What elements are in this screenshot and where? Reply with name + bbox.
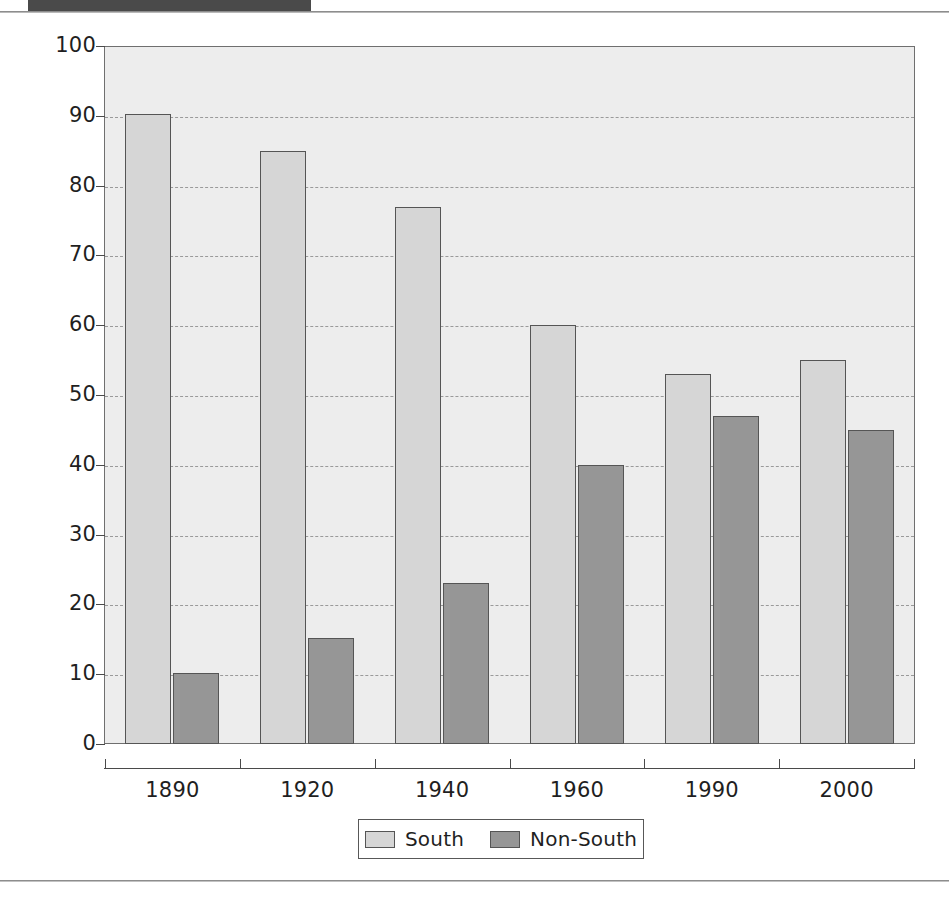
cropped-header-band xyxy=(28,0,311,11)
x-axis-tick xyxy=(914,759,915,769)
y-axis-tick-label: 50 xyxy=(40,384,96,405)
y-axis-tick xyxy=(96,465,105,466)
x-axis-tick xyxy=(105,759,106,769)
bar-south-1920 xyxy=(260,151,306,744)
y-axis-tick-label: 80 xyxy=(40,175,96,196)
y-axis-tick-label: 10 xyxy=(40,663,96,684)
y-axis-tick xyxy=(96,46,105,47)
y-axis-tick xyxy=(96,744,105,745)
bar-group xyxy=(240,47,375,744)
y-axis-tick-label: 100 xyxy=(40,35,96,56)
bar-group xyxy=(375,47,510,744)
chart-legend: SouthNon-South xyxy=(358,819,644,859)
x-axis-tick xyxy=(779,759,780,769)
bar-south-1890 xyxy=(125,114,171,744)
y-axis-tick xyxy=(96,535,105,536)
bottom-divider-rule xyxy=(0,880,949,882)
bar-south-2000 xyxy=(800,360,846,744)
y-axis-tick xyxy=(96,325,105,326)
x-axis-tick-label: 1920 xyxy=(237,778,377,802)
x-axis-tick xyxy=(510,759,511,769)
bar-chart-figure: 0102030405060708090100 Percent 189019201… xyxy=(0,13,949,873)
bar-non-south-1990 xyxy=(713,416,759,744)
y-axis-tick xyxy=(96,674,105,675)
y-axis-tick-label: 20 xyxy=(40,593,96,614)
y-axis-tick-label: 70 xyxy=(40,244,96,265)
legend-swatch-icon xyxy=(490,831,520,848)
bar-non-south-1890 xyxy=(173,673,219,744)
y-axis-tick xyxy=(96,116,105,117)
legend-item-south[interactable]: South xyxy=(365,827,464,851)
bar-non-south-1940 xyxy=(443,583,489,744)
bar-group xyxy=(105,47,240,744)
y-axis-tick xyxy=(96,255,105,256)
y-axis-labels: 0102030405060708090100 xyxy=(28,13,96,753)
x-axis-tick xyxy=(375,759,376,769)
y-axis-tick-label: 0 xyxy=(40,733,96,754)
bar-group xyxy=(644,47,779,744)
y-axis-tick-label: 90 xyxy=(40,105,96,126)
y-axis-tick xyxy=(96,395,105,396)
bar-south-1990 xyxy=(665,374,711,744)
x-axis-tick-label: 1990 xyxy=(642,778,782,802)
bar-non-south-1920 xyxy=(308,638,354,744)
bar-group xyxy=(779,47,914,744)
y-axis-tick xyxy=(96,604,105,605)
legend-label: Non-South xyxy=(530,827,637,851)
y-axis-tick-label: 60 xyxy=(40,314,96,335)
legend-swatch-icon xyxy=(365,831,395,848)
x-axis-tick xyxy=(240,759,241,769)
bar-south-1940 xyxy=(395,207,441,744)
bar-group xyxy=(510,47,645,744)
legend-item-non-south[interactable]: Non-South xyxy=(490,827,637,851)
bar-non-south-1960 xyxy=(578,465,624,744)
bar-non-south-2000 xyxy=(848,430,894,744)
legend-label: South xyxy=(405,827,464,851)
x-axis-tick-label: 1960 xyxy=(507,778,647,802)
x-axis-tick-label: 1940 xyxy=(372,778,512,802)
y-axis-tick-label: 40 xyxy=(40,454,96,475)
y-axis-tick-label: 30 xyxy=(40,524,96,545)
bar-south-1960 xyxy=(530,325,576,744)
y-axis-tick xyxy=(96,186,105,187)
x-axis-tick xyxy=(644,759,645,769)
x-axis-tick-label: 2000 xyxy=(777,778,917,802)
bars-layer xyxy=(105,47,914,744)
x-axis-tick-label: 1890 xyxy=(102,778,242,802)
